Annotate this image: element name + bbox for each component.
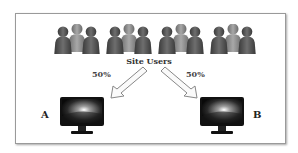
person-group-icon <box>52 24 102 54</box>
person-group-icon <box>208 24 258 54</box>
site-users-group <box>52 24 258 54</box>
site-users-label: Site Users <box>0 56 298 66</box>
monitor-icon <box>59 96 105 136</box>
person-group-icon <box>104 24 154 54</box>
person-group-icon <box>156 24 206 54</box>
monitor-icon <box>199 96 245 136</box>
arrow-to-a-icon <box>108 66 148 100</box>
variant-b-label: B <box>253 109 261 120</box>
variant-a-label: A <box>41 109 49 120</box>
arrow-to-b-icon <box>160 66 200 100</box>
